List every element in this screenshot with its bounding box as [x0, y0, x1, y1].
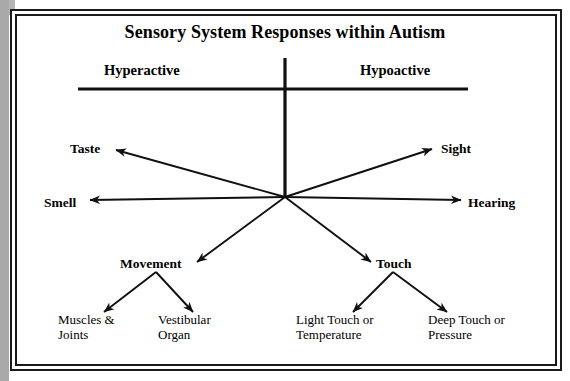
arrow-movement-to-muscles-joints [104, 272, 156, 312]
axis-label-hyperactive: Hyperactive [104, 62, 180, 78]
sense-label-smell: Smell [44, 195, 76, 210]
arrow-to-sight [285, 149, 432, 197]
leaf-line-2: Organ [158, 328, 211, 343]
arrow-movement-to-vestibular-organ [156, 272, 193, 312]
leaf-label-muscles-joints: Muscles & Joints [58, 313, 115, 342]
axis-label-hypoactive: Hypoactive [360, 62, 430, 78]
diagram-title: Sensory System Responses within Autism [0, 22, 570, 42]
leaf-line-2: Pressure [428, 328, 505, 343]
sense-label-hearing: Hearing [468, 195, 515, 210]
arrow-to-taste [116, 150, 285, 197]
arrow-to-hearing [285, 197, 461, 200]
leaf-line-2: Joints [58, 328, 115, 343]
leaf-line-2: Temperature [296, 328, 374, 343]
leaf-label-vestibular-organ: Vestibular Organ [158, 313, 211, 342]
arrow-touch-to-deep-touch-pressure [393, 272, 447, 312]
leaf-label-deep-touch-pressure: Deep Touch or Pressure [428, 313, 505, 342]
leaf-line-1: Light Touch or [296, 313, 374, 328]
arrow-touch-to-light-touch-temperature [353, 272, 393, 312]
arrow-to-smell [90, 197, 285, 200]
diagram-page: Sensory System Responses within Autism H… [0, 0, 570, 381]
leaf-label-light-touch-temperature: Light Touch or Temperature [296, 313, 374, 342]
sense-label-sight: Sight [441, 141, 471, 156]
sense-label-taste: Taste [70, 141, 100, 156]
arrow-to-movement [197, 197, 285, 262]
leaf-line-1: Muscles & [58, 313, 115, 328]
leaf-line-1: Vestibular [158, 313, 211, 328]
sense-label-movement: Movement [120, 256, 181, 271]
sense-label-touch: Touch [376, 256, 412, 271]
arrow-to-touch [285, 197, 371, 262]
leaf-line-1: Deep Touch or [428, 313, 505, 328]
